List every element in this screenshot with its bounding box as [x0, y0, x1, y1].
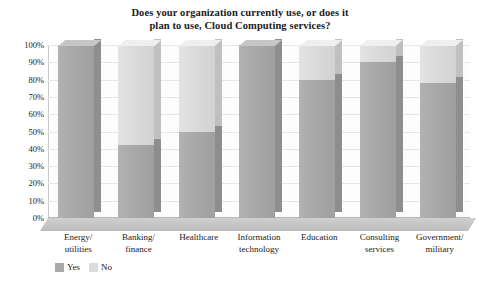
bar-top-face	[118, 40, 161, 46]
bar-side-segment-yes	[335, 74, 342, 212]
chart-title: Does your organization currently use, or…	[70, 6, 410, 32]
x-axis-category-line: Government/	[406, 232, 474, 244]
bar-segment-yes[interactable]	[420, 83, 456, 218]
legend-swatch-yes	[55, 263, 64, 272]
bar-side-face	[94, 39, 101, 212]
y-axis-tick-label: 90%	[28, 58, 44, 67]
bar-side-face	[275, 39, 282, 212]
chart-legend: YesNo	[55, 262, 112, 272]
chart-title-line-2: plan to use, Cloud Computing services?	[70, 19, 410, 32]
x-axis-category-line: utilities	[44, 244, 112, 256]
y-axis-tick-label: 50%	[28, 127, 44, 136]
bar-segment-yes[interactable]	[179, 132, 215, 219]
bar-top-face	[299, 40, 342, 46]
bar-side-face	[456, 39, 463, 212]
y-axis-labels: 0%10%20%30%40%50%60%70%80%90%100%	[0, 45, 44, 218]
bar-column	[420, 45, 456, 218]
bar-side-segment-yes	[94, 39, 101, 212]
bar-column	[299, 45, 335, 218]
bar-column	[179, 45, 215, 218]
y-axis-tick-label: 60%	[28, 110, 44, 119]
y-axis-tick-label: 10%	[28, 196, 44, 205]
bar-column	[118, 45, 154, 218]
x-axis-category-line: technology	[225, 244, 293, 256]
x-axis-category-line: Education	[285, 232, 353, 244]
bar-front-face	[179, 45, 215, 218]
y-axis-tick-label: 20%	[28, 179, 44, 188]
legend-item-yes[interactable]: Yes	[55, 262, 80, 272]
bar-top-face	[420, 40, 463, 46]
bar-side-segment-yes	[456, 77, 463, 212]
bar-top-face	[58, 40, 101, 46]
bar-front-face	[58, 45, 94, 218]
y-axis-tick-label: 80%	[28, 75, 44, 84]
bar-top-face	[179, 40, 222, 46]
bar-column	[360, 45, 396, 218]
bar-segment-no[interactable]	[299, 45, 335, 80]
y-axis-tick-label: 30%	[28, 162, 44, 171]
bar-front-face	[239, 45, 275, 218]
legend-label: No	[101, 262, 112, 272]
bar-side-segment-yes	[154, 139, 161, 212]
x-axis-category-label: Education	[285, 232, 353, 244]
x-axis-category-line: Information	[225, 232, 293, 244]
bar-side-face	[154, 39, 161, 212]
x-axis-category-line: Banking/	[104, 232, 172, 244]
x-axis-category-label: Energy/utilities	[44, 232, 112, 255]
x-axis-category-label: Government/military	[406, 232, 474, 255]
bar-front-face	[118, 45, 154, 218]
bar-segment-no[interactable]	[420, 45, 456, 83]
x-axis-category-label: Banking/finance	[104, 232, 172, 255]
bar-side-face	[396, 39, 403, 212]
x-axis-labels: Energy/utilitiesBanking/financeHealthcar…	[40, 232, 476, 262]
chart-floor	[40, 218, 476, 231]
x-axis-category-line: services	[345, 244, 413, 256]
bar-segment-yes[interactable]	[299, 80, 335, 218]
bar-segment-yes[interactable]	[360, 62, 396, 218]
bar-side-segment-yes	[396, 56, 403, 212]
legend-item-no[interactable]: No	[89, 262, 112, 272]
bar-column	[239, 45, 275, 218]
y-axis-tick-label: 40%	[28, 145, 44, 154]
chart-container: Does your organization currently use, or…	[0, 0, 479, 285]
bar-segment-yes[interactable]	[239, 45, 275, 218]
y-axis-tick-label: 100%	[24, 41, 44, 50]
x-axis-category-line: Consulting	[345, 232, 413, 244]
bar-segment-no[interactable]	[360, 45, 396, 62]
legend-swatch-no	[89, 263, 98, 272]
x-axis-category-line: Healthcare	[165, 232, 233, 244]
bar-segment-yes[interactable]	[58, 45, 94, 218]
bar-column	[58, 45, 94, 218]
bar-side-face	[335, 39, 342, 212]
bar-columns	[48, 45, 470, 218]
bar-side-segment-no	[215, 39, 222, 126]
bar-side-segment-yes	[275, 39, 282, 212]
x-axis-category-line: finance	[104, 244, 172, 256]
y-axis-tick-label: 70%	[28, 93, 44, 102]
bar-top-face	[360, 40, 403, 46]
bar-front-face	[420, 45, 456, 218]
chart-title-line-1: Does your organization currently use, or…	[70, 6, 410, 19]
bar-segment-no[interactable]	[179, 45, 215, 132]
bar-side-segment-yes	[215, 126, 222, 213]
x-axis-category-label: Healthcare	[165, 232, 233, 244]
bar-side-segment-no	[154, 39, 161, 139]
bar-top-face	[239, 40, 282, 46]
bar-segment-no[interactable]	[118, 45, 154, 145]
y-axis-tick-label: 0%	[33, 214, 44, 223]
bar-front-face	[360, 45, 396, 218]
x-axis-category-line: military	[406, 244, 474, 256]
bar-side-face	[215, 39, 222, 212]
legend-label: Yes	[67, 262, 80, 272]
bar-front-face	[299, 45, 335, 218]
x-axis-category-line: Energy/	[44, 232, 112, 244]
bar-segment-yes[interactable]	[118, 145, 154, 218]
x-axis-category-label: Consultingservices	[345, 232, 413, 255]
x-axis-category-label: Informationtechnology	[225, 232, 293, 255]
